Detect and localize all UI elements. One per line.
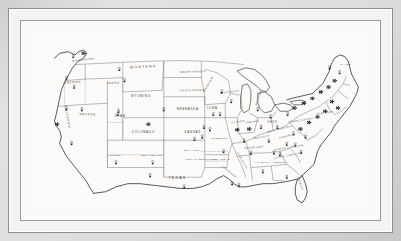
map-symbol-marker xyxy=(269,115,271,119)
map-symbol-marker xyxy=(71,141,73,145)
state-label-new-mexico: NEW MEXICO xyxy=(141,154,163,157)
map-figure: WASHINGTONOREGONIDAHOMONTANANORTH DAKOTA… xyxy=(0,0,401,241)
map-symbol-cluster xyxy=(298,127,303,131)
map-frame-inner: WASHINGTONOREGONIDAHOMONTANANORTH DAKOTA… xyxy=(20,20,381,221)
state-label-california: CALIFORNIA xyxy=(63,105,71,129)
map-symbol-cluster xyxy=(330,100,335,104)
state-label-indiana: INDIANA xyxy=(245,120,259,125)
state-label-wyoming: WYOMING xyxy=(131,94,151,98)
map-symbol-marker xyxy=(238,183,240,187)
state-label-florida: FLORIDA xyxy=(296,177,303,191)
state-label-iowa: IOWA xyxy=(207,106,218,110)
state-label-north-carolina: NORTH CAROLINA xyxy=(274,144,304,152)
state-label-oregon: OREGON xyxy=(63,80,81,85)
state-label-north-dakota: NORTH DAKOTA xyxy=(180,70,206,74)
map-symbol-marker xyxy=(118,67,120,71)
state-label-kansas: KANSAS xyxy=(185,130,201,134)
state-label-west-virginia: WEST VIRGINIA xyxy=(267,125,293,135)
state-label-south-carolina: SOUTH CAROLINA xyxy=(273,151,303,160)
map-symbol-marker xyxy=(123,78,125,82)
map-symbol-marker xyxy=(276,125,278,129)
map-symbol-marker xyxy=(115,160,117,164)
map-symbol-marker xyxy=(73,85,75,89)
map-plate: WASHINGTONOREGONIDAHOMONTANANORTH DAKOTA… xyxy=(34,34,367,207)
map-symbol-cluster xyxy=(235,128,240,132)
map-symbol-marker xyxy=(260,125,262,129)
map-symbol-cluster xyxy=(247,127,252,131)
state-label-utah: UTAH xyxy=(115,114,126,118)
map-symbol-marker xyxy=(152,160,154,164)
map-symbol-marker xyxy=(219,112,221,116)
map-symbol-cluster xyxy=(310,96,315,100)
state-label-nebraska: NEBRASKA xyxy=(177,107,199,111)
map-symbol-marker xyxy=(268,139,270,143)
great-lakes xyxy=(237,68,305,113)
state-label-ohio: OHIO xyxy=(267,120,278,124)
map-symbol-marker xyxy=(286,175,288,179)
state-label-missouri: MISSOURI xyxy=(212,137,229,140)
map-symbol-marker xyxy=(201,135,203,139)
map-symbol-marker xyxy=(250,151,252,155)
state-label-alabama: ALABAMA xyxy=(255,161,271,164)
map-symbol-cluster xyxy=(146,122,151,126)
state-label-nevada: NEVADA xyxy=(80,112,97,116)
map-symbol-marker xyxy=(262,169,264,173)
map-symbol-cluster xyxy=(307,121,312,125)
map-symbol-marker xyxy=(81,107,83,111)
state-label-minnesota: MINNESOTA xyxy=(203,76,215,94)
state-label-idaho: IDAHO xyxy=(107,81,120,85)
state-label-maine: MAINE xyxy=(340,63,351,66)
map-symbol-marker xyxy=(286,142,288,146)
state-label-arkansas: ARKANSAS xyxy=(212,158,230,161)
map-symbol-cluster xyxy=(332,79,337,83)
map-symbol-cluster xyxy=(315,115,320,119)
map-symbol-cluster xyxy=(326,85,331,89)
map-frame-outer: WASHINGTONOREGONIDAHOMONTANANORTH DAKOTA… xyxy=(8,8,393,233)
state-label-colorado: COLORADO xyxy=(132,130,155,134)
map-symbol-marker xyxy=(193,137,195,141)
state-label-mississippi: MISSISSIPPI xyxy=(236,152,248,171)
state-label-virginia: VIRGINIA xyxy=(279,133,295,139)
state-label-montana: MONTANA xyxy=(130,64,157,69)
map-symbol-cluster xyxy=(319,90,324,94)
map-symbol-marker xyxy=(287,112,289,116)
map-symbol-marker xyxy=(339,70,341,74)
map-symbol-marker xyxy=(257,107,259,111)
map-symbol-marker xyxy=(212,112,214,116)
state-label-kentucky: KENTUCKY xyxy=(253,134,271,140)
map-symbol-cluster xyxy=(336,106,341,110)
us-map-svg: WASHINGTONOREGONIDAHOMONTANANORTH DAKOTA… xyxy=(34,34,367,207)
state-label-washington: WASHINGTON xyxy=(72,58,95,63)
state-label-michigan: MICHIGAN xyxy=(255,89,263,105)
state-label-louisiana: LOUISIANA xyxy=(221,165,237,178)
map-symbol-marker xyxy=(149,173,151,177)
map-symbol-marker xyxy=(209,128,211,132)
map-symbol-marker xyxy=(223,149,225,153)
national-outline xyxy=(54,50,358,203)
state-label-arizona: ARIZONA xyxy=(108,154,123,157)
map-symbol-marker xyxy=(183,185,185,189)
state-label-georgia: GEORGIA xyxy=(273,161,288,164)
state-label-texas: TEXAS xyxy=(168,176,186,180)
map-symbol-marker xyxy=(230,99,232,103)
state-label-oklahoma: OKLAHOMA xyxy=(184,150,203,153)
